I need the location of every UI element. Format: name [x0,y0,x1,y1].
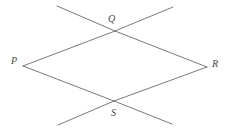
extension-through-Q-upper-right [115,7,173,31]
side-PQ [23,31,115,66]
vertex-label-P: P [11,56,17,66]
side-RS [114,67,207,101]
vertex-label-R: R [212,59,218,69]
extension-through-S-lower-left [58,101,114,125]
side-QR [115,31,207,67]
geometry-figure: P Q R S [0,0,230,131]
vertex-label-Q: Q [108,14,115,24]
vertex-label-S: S [111,108,116,118]
extension-through-Q-upper-left [57,6,115,31]
side-SP [23,66,114,101]
extension-through-S-lower-right [114,101,172,124]
